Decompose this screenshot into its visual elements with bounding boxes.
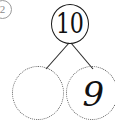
node-part-left-empty[interactable] — [12, 66, 64, 120]
node-part-right-value: 9 — [82, 77, 103, 111]
number-bond-diagram: 2 10 9 — [0, 0, 115, 129]
node-total-value: 10 — [56, 10, 83, 37]
connector-line-left — [46, 43, 69, 69]
node-total: 10 — [51, 4, 89, 44]
node-part-right: 9 — [66, 66, 115, 120]
